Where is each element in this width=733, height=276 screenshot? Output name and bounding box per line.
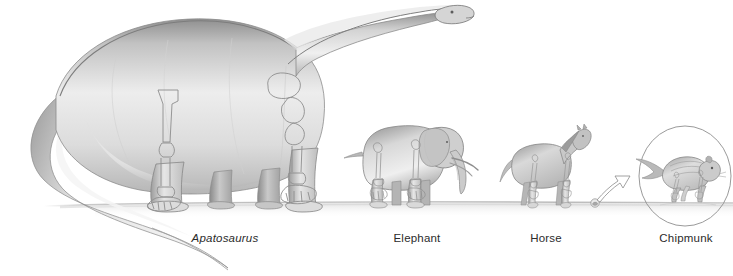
elephant-tail [344,152,363,158]
horse-eye [582,135,584,137]
animal-chipmunk [636,156,726,205]
label-elephant: Elephant [394,232,441,244]
illustration-canvas [0,0,733,276]
size-comparison-figure: Apatosaurus Elephant Horse Chipmunk [0,0,733,276]
elephant-eye [446,141,448,143]
label-chipmunk: Chipmunk [659,232,712,244]
apatosaurus-eye [451,11,454,14]
ground-line [44,202,733,218]
chipmunk-head [699,161,720,182]
magnifier-callout-arrow [597,176,630,202]
elephant-trunk [450,150,466,194]
apatosaurus-body [56,19,325,194]
animal-horse [500,124,591,208]
animal-elephant [344,126,478,208]
chipmunk-eye [711,167,713,169]
horse-head [573,129,592,149]
label-apatosaurus: Apatosaurus [192,232,259,244]
label-horse: Horse [530,232,562,244]
